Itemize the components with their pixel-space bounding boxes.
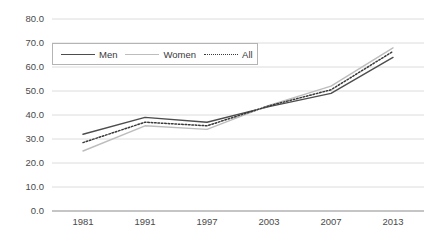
legend-label-all: All [242,49,253,60]
x-axis-tick-label: 2007 [311,217,351,227]
y-axis-tick-label: 40.0 [0,110,44,120]
line-solid-dark-icon [61,50,95,59]
y-axis-tick-label: 30.0 [0,134,44,144]
y-axis-tick-label: 20.0 [0,158,44,168]
chart-plot-area [0,0,432,240]
legend-item-women: Women [117,44,196,64]
y-axis-tick-label: 10.0 [0,182,44,192]
line-chart: 0.010.020.030.040.050.060.070.080.0 1981… [0,0,432,240]
x-axis-tick-label: 2013 [373,217,413,227]
x-axis-tick-label: 1991 [125,217,165,227]
y-axis-tick-label: 80.0 [0,14,44,24]
legend-item-all: All [196,44,253,64]
y-axis-tick-label: 50.0 [0,86,44,96]
series-line-men [83,57,393,134]
line-dotted-icon [204,50,238,59]
y-axis-tick-label: 70.0 [0,38,44,48]
legend-label-men: Men [99,49,117,60]
legend-item-men: Men [53,44,117,64]
y-axis-tick-label: 60.0 [0,62,44,72]
x-axis-tick-label: 2003 [249,217,289,227]
chart-legend: Men Women All [52,43,258,65]
y-axis-tick-label: 0.0 [0,206,44,216]
x-axis-tick-label: 1997 [187,217,227,227]
x-axis-tick-label: 1981 [63,217,103,227]
line-solid-light-icon [125,50,159,59]
legend-label-women: Women [163,49,196,60]
series-line-all [83,51,393,142]
